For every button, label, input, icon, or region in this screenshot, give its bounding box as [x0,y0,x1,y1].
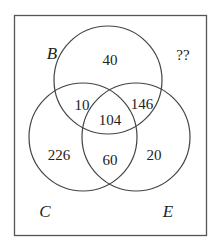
region-e-only: 20 [147,147,162,163]
region-c-only: 226 [48,147,71,163]
set-e-label: E [162,202,174,221]
region-b-only: 40 [103,52,118,68]
set-c-label: C [39,202,51,221]
region-c-and-e: 60 [103,152,118,168]
set-b-label: B [47,44,58,63]
venn-diagram: B C E ?? 40 10 146 104 226 60 20 [0,0,212,247]
region-b-c-e: 104 [99,112,122,128]
region-b-and-c: 10 [75,97,90,113]
region-b-and-e: 146 [131,96,154,112]
universe-label: ?? [176,47,190,63]
